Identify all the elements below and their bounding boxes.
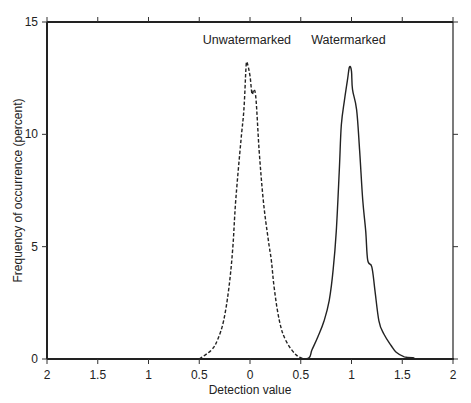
detection-value-chart: 21.510.500.511.52051015 UnwatermarkedWat… [0,0,471,403]
y-tick-label: 15 [25,15,39,29]
x-tick-label: 2 [450,368,457,382]
x-tick-label: 0.5 [292,368,309,382]
x-tick-label: 1 [145,368,152,382]
x-tick-label: 1.5 [89,368,106,382]
y-tick-label: 0 [31,352,38,366]
labels-layer: Detection value Frequency of occurrence … [11,98,292,397]
series-layer: UnwatermarkedWatermarked [199,33,414,359]
x-axis-title: Detection value [209,383,292,397]
x-tick-label: 1.5 [394,368,411,382]
y-axis-title: Frequency of occurrence (percent) [11,98,25,282]
series-line-unwatermarked [199,62,303,359]
x-tick-label: 2 [44,368,51,382]
axes: 21.510.500.511.52051015 [25,15,458,382]
y-tick-label: 5 [31,240,38,254]
x-tick-label: 1 [348,368,355,382]
annotation-watermarked: Watermarked [311,33,386,47]
x-tick-label: 0 [247,368,254,382]
annotation-unwatermarked: Unwatermarked [203,33,291,47]
x-tick-label: 0.5 [191,368,208,382]
y-tick-label: 10 [25,127,39,141]
series-line-watermarked [300,66,415,359]
